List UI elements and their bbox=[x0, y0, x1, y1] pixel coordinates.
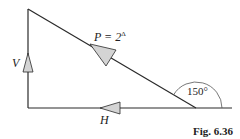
force-p-label: P = 2Δ bbox=[93, 30, 126, 44]
hypotenuse-line bbox=[28, 9, 196, 108]
arrow-up-left-icon bbox=[90, 44, 116, 66]
force-h-label: H bbox=[99, 113, 110, 127]
figure-caption: Fig. 6.36 bbox=[193, 125, 234, 137]
force-triangle-diagram: P = 2Δ V H 150° Fig. 6.36 bbox=[0, 0, 240, 139]
angle-label: 150° bbox=[187, 85, 208, 97]
arrow-up-icon bbox=[23, 53, 33, 72]
force-v-label: V bbox=[12, 56, 21, 70]
